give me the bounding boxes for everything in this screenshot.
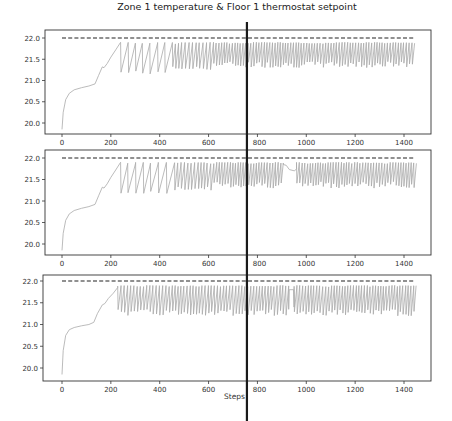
- x-tick-label: 400: [153, 139, 166, 147]
- y-tick-label: 20.0: [24, 120, 40, 128]
- y-tick-label: 21.0: [24, 198, 40, 206]
- x-tick-label: 1400: [395, 386, 413, 394]
- x-tick-label: 800: [253, 139, 266, 147]
- x-tick-label: 600: [202, 260, 215, 268]
- x-tick-label: 1200: [346, 260, 364, 268]
- y-tick-label: 20.0: [24, 241, 40, 249]
- y-tick-label: 21.5: [22, 299, 38, 307]
- y-tick-label: 22.0: [24, 155, 40, 163]
- x-tick-label: 600: [202, 139, 215, 147]
- x-tick-label: 1200: [346, 386, 364, 394]
- y-tick-label: 21.0: [22, 321, 38, 329]
- x-tick-label: 800: [253, 260, 266, 268]
- y-tick-label: 20.5: [24, 98, 40, 106]
- x-axis-label: Steps: [224, 392, 245, 401]
- x-tick-label: 1000: [297, 260, 315, 268]
- y-tick-label: 22.0: [24, 35, 40, 43]
- temperature-line: [62, 42, 415, 129]
- x-tick-label: 200: [104, 386, 117, 394]
- x-tick-label: 1400: [395, 139, 413, 147]
- x-tick-label: 200: [104, 260, 117, 268]
- x-tick-label: 0: [60, 386, 64, 394]
- x-tick-label: 1400: [395, 260, 413, 268]
- x-tick-label: 400: [153, 386, 166, 394]
- x-tick-label: 1000: [297, 386, 315, 394]
- y-tick-label: 20.5: [22, 343, 38, 351]
- x-tick-label: 200: [104, 139, 117, 147]
- temperature-line: [62, 285, 416, 374]
- figure-canvas: 20.020.521.021.522.002004006008001000120…: [0, 0, 452, 421]
- y-tick-label: 20.0: [22, 365, 38, 373]
- x-tick-label: 1200: [346, 139, 364, 147]
- x-tick-label: 0: [60, 260, 64, 268]
- y-tick-label: 21.5: [24, 56, 40, 64]
- x-tick-label: 1000: [297, 139, 315, 147]
- y-tick-label: 21.0: [24, 77, 40, 85]
- x-tick-label: 600: [202, 386, 215, 394]
- y-tick-label: 20.5: [24, 219, 40, 227]
- x-tick-label: 0: [60, 139, 64, 147]
- x-tick-label: 800: [253, 386, 266, 394]
- y-tick-label: 22.0: [22, 278, 38, 286]
- y-tick-label: 21.5: [24, 176, 40, 184]
- x-tick-label: 400: [153, 260, 166, 268]
- temperature-line: [62, 162, 416, 250]
